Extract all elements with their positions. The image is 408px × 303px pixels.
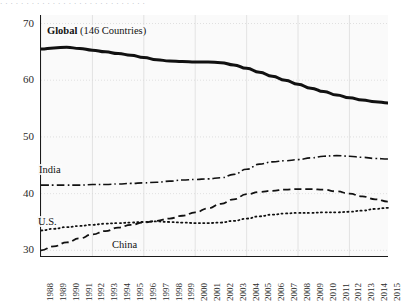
y-tick-label: 30: [8, 243, 34, 255]
x-tick-label: 2013: [366, 283, 376, 301]
chart-svg: [0, 0, 408, 303]
x-tick-label: 1991: [84, 283, 94, 301]
x-tick-label: 2000: [199, 283, 209, 301]
x-tick-label: 2003: [238, 283, 248, 301]
x-axis-line: [40, 256, 388, 257]
y-tick-label: 40: [8, 187, 34, 199]
series-annotation-india: India: [38, 164, 62, 175]
x-tick-label: 2001: [212, 283, 222, 301]
series-line-india: [41, 156, 388, 185]
x-tick-label: 1989: [58, 283, 68, 301]
x-tick-label: 2009: [315, 283, 325, 301]
series-annotation-global: Global (146 Countries): [46, 25, 147, 36]
x-tick-label: 1993: [109, 283, 119, 301]
x-tick-label: 2002: [225, 283, 235, 301]
y-tick-label: 60: [8, 73, 34, 85]
series-annotation-china: China: [111, 239, 138, 250]
x-tick-label: 2015: [392, 283, 402, 301]
series-line-u-s: [41, 208, 388, 231]
x-tick-label: 2007: [289, 283, 299, 301]
global-label-bold: Global: [47, 25, 77, 36]
x-tick-label: 1997: [161, 283, 171, 301]
global-label-rest: (146 Countries): [77, 25, 146, 36]
x-tick-label: 1995: [135, 283, 145, 301]
series-line-global-countries: [41, 47, 388, 103]
x-tick-label: 2004: [251, 283, 261, 301]
x-tick-label: 1990: [71, 283, 81, 301]
series-line-china: [41, 189, 388, 250]
x-tick-label: 2006: [276, 283, 286, 301]
x-tick-label: 2012: [353, 283, 363, 301]
x-tick-label: 1994: [122, 283, 132, 301]
figure-container: · · · · · · · · · · · · · · · · · · · · …: [0, 0, 408, 303]
x-tick-label: 2008: [302, 283, 312, 301]
x-tick-label: 1996: [148, 283, 158, 301]
x-tick-label: 1992: [96, 283, 106, 301]
x-tick-label: 2011: [341, 283, 351, 301]
x-tick-label: 2005: [263, 283, 273, 301]
series-lines-group: [41, 47, 388, 250]
x-tick-label: 1998: [174, 283, 184, 301]
x-tick-label: 1988: [45, 283, 55, 301]
y-tick-label: 50: [8, 130, 34, 142]
x-tick-label: 2014: [379, 283, 389, 301]
x-tick-label: 2010: [328, 283, 338, 301]
series-annotation-us: U.S.: [37, 216, 58, 227]
x-tick-label: 1999: [186, 283, 196, 301]
y-tick-label: 70: [8, 17, 34, 29]
